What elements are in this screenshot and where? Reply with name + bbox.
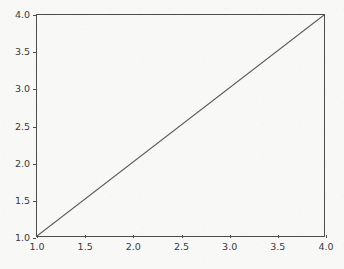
line-series-svg bbox=[37, 15, 324, 236]
y-tick-label: 3.0 bbox=[15, 85, 30, 95]
x-tick-mark bbox=[278, 235, 279, 238]
x-tick-label: 1.0 bbox=[29, 242, 44, 252]
x-tick-label: 2.5 bbox=[174, 242, 189, 252]
x-tick-label: 3.0 bbox=[222, 242, 237, 252]
y-tick-label: 2.5 bbox=[15, 122, 30, 132]
x-tick-mark bbox=[182, 235, 183, 238]
x-tick-label: 3.5 bbox=[270, 242, 285, 252]
y-tick-label: 4.0 bbox=[15, 10, 30, 20]
y-tick-label: 2.0 bbox=[15, 159, 30, 169]
y-tick-label: 3.5 bbox=[15, 47, 30, 57]
x-tick-label: 1.5 bbox=[78, 242, 93, 252]
y-tick-mark bbox=[33, 89, 36, 90]
x-tick-mark bbox=[85, 235, 86, 238]
x-tick-mark bbox=[230, 235, 231, 238]
plot-axes: 1.01.52.02.53.03.54.0 1.01.52.02.53.03.5… bbox=[36, 14, 325, 237]
y-tick-label: 1.0 bbox=[15, 233, 30, 243]
figure-canvas: 1.01.52.02.53.03.54.0 1.01.52.02.53.03.5… bbox=[0, 0, 344, 269]
y-tick-mark bbox=[33, 164, 36, 165]
x-tick-label: 4.0 bbox=[318, 242, 333, 252]
y-tick-mark bbox=[33, 127, 36, 128]
y-tick-mark bbox=[33, 15, 36, 16]
y-tick-label: 1.5 bbox=[15, 196, 30, 206]
x-tick-mark bbox=[37, 235, 38, 238]
x-tick-mark bbox=[133, 235, 134, 238]
x-tick-mark bbox=[326, 235, 327, 238]
y-tick-mark bbox=[33, 201, 36, 202]
y-tick-mark bbox=[33, 238, 36, 239]
y-tick-mark bbox=[33, 52, 36, 53]
x-tick-label: 2.0 bbox=[126, 242, 141, 252]
line-series-path bbox=[37, 15, 324, 236]
